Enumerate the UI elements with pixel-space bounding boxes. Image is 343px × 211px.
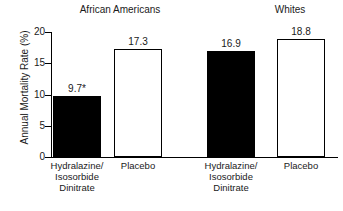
bar-value-label: 18.8 [277, 26, 325, 37]
y-tick-mark [45, 32, 51, 33]
bar-value-label: 16.9 [207, 38, 255, 49]
bar-value-label: 9.7* [53, 83, 101, 94]
bar-placebo-whites[interactable] [277, 39, 325, 157]
y-tick-mark [45, 126, 51, 127]
bar-value-label: 17.3 [114, 36, 162, 47]
x-category-line: Placebo [108, 160, 168, 171]
x-category-line: Dinitrate [197, 182, 265, 193]
x-category-line: Isosorbide [197, 171, 265, 182]
x-category-line: Hydralazine/ [197, 160, 265, 171]
x-category-line: Isosorbide [43, 171, 111, 182]
x-category-label-placebo-african-americans: Placebo [108, 160, 168, 171]
y-tick-label: 15 [21, 58, 45, 68]
x-category-label-placebo-whites: Placebo [271, 160, 331, 171]
x-category-label-hydralazine-african-americans: Hydralazine/ Isosorbide Dinitrate [43, 160, 111, 193]
x-category-line: Dinitrate [43, 182, 111, 193]
y-axis-line [51, 32, 52, 158]
x-category-label-hydralazine-whites: Hydralazine/ Isosorbide Dinitrate [197, 160, 265, 193]
y-tick-mark [45, 63, 51, 64]
group-title-whites: Whites [242, 4, 338, 15]
bar-chart-figure: African Americans Whites Annual Mortalit… [0, 0, 343, 211]
x-axis-line [51, 157, 338, 158]
bar-hydralazine-african-americans[interactable] [53, 96, 101, 157]
bar-placebo-african-americans[interactable] [114, 49, 162, 157]
y-tick-label: 0 [21, 152, 45, 162]
y-tick-label: 10 [21, 90, 45, 100]
group-title-african-americans: African Americans [56, 4, 184, 15]
x-category-line: Placebo [271, 160, 331, 171]
y-tick-mark [45, 95, 51, 96]
x-category-line: Hydralazine/ [43, 160, 111, 171]
bar-hydralazine-whites[interactable] [207, 51, 255, 157]
y-tick-label: 5 [21, 121, 45, 131]
y-tick-label: 20 [21, 27, 45, 37]
